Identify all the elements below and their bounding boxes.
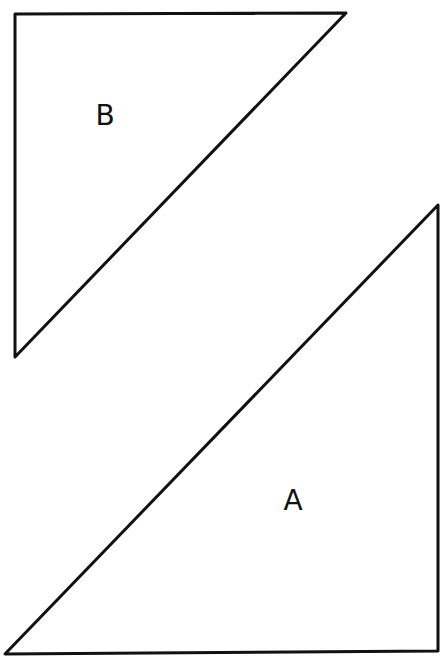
triangle-a-label: A [283,484,302,517]
triangle-b [15,13,346,357]
triangle-a [5,205,438,654]
triangle-b-label: B [95,99,114,132]
diagram-canvas: B A [0,0,445,663]
